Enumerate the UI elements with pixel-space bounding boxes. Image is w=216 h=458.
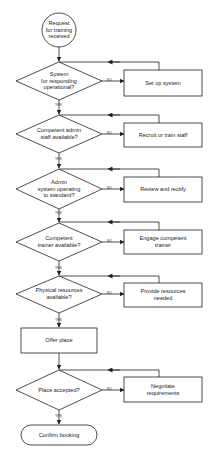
decision-4-label: Competent trainer available? [22,230,96,254]
decision-1-label: System for responding operational? [22,68,96,94]
decision-2-label: Competent admin staff available? [22,122,96,146]
action-2-label: Recruit or train staff [124,123,202,147]
decision-3-label: Admin system operating to standard? [22,176,96,202]
yes-label-1: YES [55,103,62,107]
no-label-4: NO [107,239,112,243]
no-label-2: NO [107,131,112,135]
final-action-label: Negotiate requirements [124,377,202,402]
yes-label-2: YES [55,157,62,161]
action-4-label: Engage competent trainer [124,230,202,254]
action-1-label: Set up system [124,70,202,96]
no-label-5: NO [107,291,112,295]
no-label-1: NO [107,78,112,82]
yes-label-6: YES [55,414,62,418]
decision-5-label: Physical resources available? [22,282,96,306]
action-5-label: Provide resources needed [124,283,202,307]
action-3-label: Review and rectify [124,177,202,202]
final-decision-label: Place accepted? [22,380,96,400]
end-label: Confirm booking [21,425,97,445]
start-label: Request for training received [42,17,76,43]
process-label: Offer place [21,328,97,353]
yes-label-5: YES [55,318,62,322]
no-label-6: NO [107,387,112,391]
yes-label-3: YES [55,211,62,215]
no-label-3: NO [107,186,112,190]
yes-label-4: YES [55,266,62,270]
